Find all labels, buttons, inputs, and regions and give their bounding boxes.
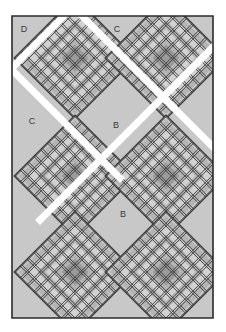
block-label-c: C [114, 24, 121, 34]
block-label-c: C [29, 116, 36, 126]
quilt-canvas: DCCBB [0, 0, 226, 332]
block-label-b: B [120, 209, 126, 219]
block-label-b: B [113, 120, 119, 130]
quilt-diagram: DCCBB [0, 0, 226, 332]
block-label-d: D [21, 24, 28, 34]
